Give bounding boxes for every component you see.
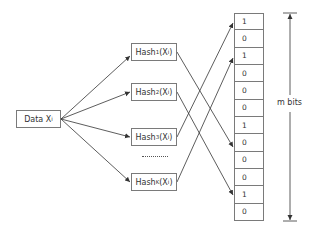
hash-label: Hash bbox=[136, 133, 156, 142]
bit-cell: 1 bbox=[234, 117, 264, 134]
bit-cell: 0 bbox=[234, 204, 264, 221]
arrow-data-to-hash2 bbox=[61, 92, 130, 119]
bit-cell: 0 bbox=[234, 30, 264, 47]
bit-cell: 0 bbox=[234, 134, 264, 151]
arrow-data-to-hashk bbox=[61, 119, 130, 182]
ellipsis-separator bbox=[142, 156, 168, 157]
data-node-label: Data X bbox=[24, 115, 51, 124]
hash-arg: (X bbox=[159, 48, 168, 57]
bit-array: 1 0 1 0 0 0 1 0 0 0 1 0 bbox=[234, 13, 264, 221]
arrow-data-to-hash1 bbox=[61, 56, 130, 119]
hash-label: Hash bbox=[136, 48, 156, 57]
bit-cell: 1 bbox=[234, 13, 264, 30]
hash-close: ) bbox=[169, 48, 172, 57]
bit-cell: 0 bbox=[234, 65, 264, 82]
bit-cell: 0 bbox=[234, 100, 264, 117]
data-node: Data Xi bbox=[16, 110, 61, 128]
arrow-hash2-to-bit11 bbox=[177, 92, 233, 195]
hash-close: ) bbox=[169, 133, 172, 142]
bit-cell: 0 bbox=[234, 169, 264, 186]
hash-arg: (X bbox=[159, 178, 168, 187]
arrow-hash1-to-bit7 bbox=[177, 52, 233, 147]
hash-close: ) bbox=[169, 88, 172, 97]
hash-close: ) bbox=[169, 178, 172, 187]
hash-arg: (X bbox=[159, 133, 168, 142]
bit-cell: 0 bbox=[234, 152, 264, 169]
data-node-subscript: i bbox=[51, 116, 53, 122]
hash-arg: (X bbox=[159, 88, 168, 97]
bit-cell: 0 bbox=[234, 82, 264, 99]
hash-node-3: Hash3(Xi) bbox=[131, 128, 177, 146]
hash-label: Hash bbox=[135, 178, 155, 187]
hash-label: Hash bbox=[136, 88, 156, 97]
bit-cell: 1 bbox=[234, 186, 264, 203]
hash-node-k: HashK(Xi) bbox=[131, 173, 177, 191]
m-bits-label: m bits bbox=[276, 98, 303, 107]
bit-cell: 1 bbox=[234, 48, 264, 65]
hash-node-2: Hash2(Xi) bbox=[131, 83, 177, 101]
hash-node-1: Hash1(Xi) bbox=[131, 43, 177, 61]
